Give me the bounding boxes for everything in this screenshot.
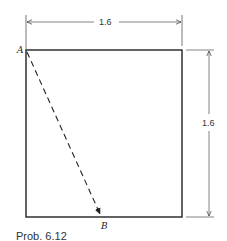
height-dimension: 1.6 [186, 50, 215, 217]
point-a-label: A [16, 45, 24, 55]
square [26, 50, 182, 217]
width-dimension: 1.6 [26, 15, 182, 50]
diagram-canvas: 1.6 1.6 A B [0, 0, 227, 241]
height-label: 1.6 [202, 118, 215, 128]
dashed-arrow-a-to-b [27, 52, 100, 214]
figure-caption: Prob. 6.12 [16, 230, 67, 241]
point-b-label: B [100, 221, 108, 231]
width-label: 1.6 [99, 17, 112, 27]
